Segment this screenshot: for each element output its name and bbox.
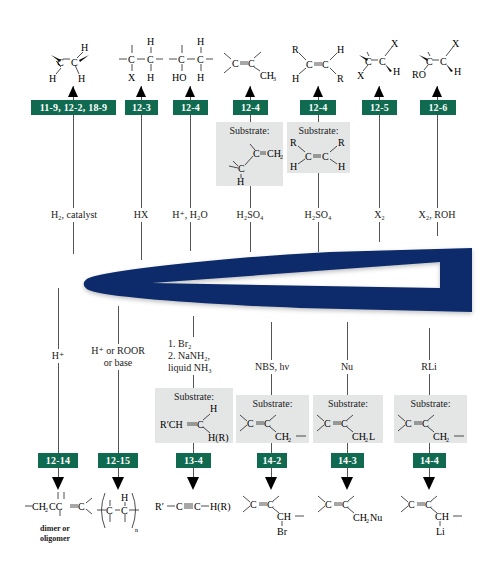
svg-text:H: H (454, 66, 461, 77)
svg-text:H: H (147, 72, 154, 83)
arrow-up-icon (313, 86, 323, 97)
product-alkyne: R′ C C H(R) (153, 496, 243, 516)
svg-text:C: C (232, 58, 239, 69)
svg-text:R′: R′ (155, 501, 164, 512)
arrow-down-icon (187, 477, 199, 490)
svg-text:R: R (290, 137, 297, 148)
section-badge: 12-3 (125, 100, 158, 115)
svg-text:C: C (408, 499, 415, 510)
svg-text:R: R (338, 137, 345, 148)
svg-text:Br: Br (277, 526, 288, 537)
section-badge: 12-4 (300, 100, 336, 115)
product-alkyl-halide: C C H X H (117, 34, 167, 84)
svg-text:H: H (210, 403, 217, 414)
section-badge: 12-14 (38, 453, 78, 468)
section-badge: 14-3 (331, 453, 364, 468)
svg-text:H(R): H(R) (210, 501, 231, 513)
svg-text:2: 2 (365, 437, 368, 443)
svg-text:C: C (121, 505, 128, 516)
reagent-line: H⁺ or ROOR (88, 345, 148, 357)
svg-text:H: H (237, 176, 244, 187)
reagent-line: or base (88, 357, 148, 369)
svg-text:Li: Li (436, 526, 445, 537)
svg-text:Nu: Nu (370, 512, 382, 523)
svg-text:C: C (247, 418, 254, 429)
reagent-label: X₂, ROH (418, 208, 456, 222)
section-badge: 14-2 (257, 453, 287, 468)
svg-text:C: C (178, 54, 185, 65)
reagent-label: RLi (418, 360, 440, 374)
arrow-up-icon (185, 86, 195, 97)
svg-text:C: C (264, 418, 271, 429)
product-dimer-oligomer: CH2 CC C (22, 490, 97, 522)
reagent-label: Nu (338, 360, 356, 374)
product-alkane-syn-h2: C C H H H (45, 38, 105, 83)
svg-text:C: C (78, 501, 85, 512)
substrate-box: Substrate: R H C C R H (287, 122, 350, 173)
svg-text:C: C (267, 499, 274, 510)
section-badge: 12-4 (173, 100, 208, 115)
section-badge: 12-15 (98, 453, 138, 468)
svg-text:H: H (121, 492, 128, 503)
svg-text:L: L (369, 431, 375, 442)
product-halo-ether: C C X H RO (412, 38, 472, 84)
svg-text:C: C (440, 56, 447, 67)
substrate-structure-allylic: C CH2 C H (216, 122, 283, 186)
arrow-down-icon (112, 477, 124, 490)
svg-text:X: X (452, 38, 460, 49)
substrate-box: Substrate: R′CH C H H(R) (155, 388, 233, 443)
svg-text:H: H (197, 36, 204, 47)
svg-text:H: H (393, 66, 400, 77)
svg-text:2: 2 (280, 154, 283, 160)
svg-text:H: H (338, 161, 345, 172)
svg-text:H: H (292, 73, 299, 84)
svg-text:C: C (322, 59, 329, 70)
svg-text:CH: CH (433, 431, 447, 442)
svg-text:C: C (306, 59, 313, 70)
section-badge: 12-6 (420, 100, 456, 115)
svg-text:C: C (248, 58, 255, 69)
svg-text:C: C (379, 56, 386, 67)
svg-text:X: X (357, 70, 365, 81)
svg-text:C: C (71, 57, 78, 68)
arrow-up-icon (68, 86, 78, 97)
svg-text:C: C (324, 418, 331, 429)
arrow-up-icon (136, 86, 146, 97)
arrow-up-icon (374, 86, 384, 97)
svg-text:R: R (337, 73, 344, 84)
product-alcohol: C C H HO H (167, 34, 217, 84)
section-badge: 12-4 (233, 100, 268, 115)
svg-text:2: 2 (288, 437, 291, 443)
product-vicinal-dihalide: C C X H X (355, 38, 410, 84)
substrate-box: Substrate: C C CH2 (236, 395, 309, 443)
reagent-label: 1. Br₂ 2. NaNH₂, liquid NH₃ (168, 337, 220, 375)
svg-text:CH: CH (32, 501, 46, 512)
svg-text:C: C (194, 501, 201, 512)
connector-line (58, 288, 59, 478)
reagent-line: 2. NaNH₂, (168, 350, 220, 362)
svg-text:C: C (197, 54, 204, 65)
section-badge: 13-4 (176, 453, 211, 468)
svg-text:R′CH: R′CH (160, 419, 183, 430)
substrate-structure-allylic-leaving-group: C C CH2L (313, 395, 383, 443)
svg-text:2: 2 (366, 518, 369, 524)
svg-text:H: H (78, 73, 85, 84)
svg-text:C: C (106, 505, 113, 516)
svg-text:H: H (197, 72, 204, 83)
svg-text:C: C (250, 499, 257, 510)
substrate-box: Substrate: C C CH2L (313, 395, 383, 443)
svg-text:C: C (57, 57, 64, 68)
arrow-up-icon (432, 86, 442, 97)
arrow-down-icon (341, 477, 353, 490)
reagent-label: HX (130, 208, 152, 222)
substrate-box: Substrate: C C CH2 (394, 395, 467, 443)
svg-text:RO: RO (412, 69, 426, 80)
note-line: oligomer (30, 534, 80, 544)
svg-text:HO: HO (172, 72, 186, 83)
substrate-structure-terminal-alkene: R′CH C H H(R) (155, 388, 233, 443)
svg-text:R: R (292, 44, 299, 55)
reagent-label: H₂, catalyst (48, 208, 100, 222)
section-badge: 12-5 (362, 100, 397, 115)
svg-text:2: 2 (446, 437, 449, 443)
reagent-label: X₂ (372, 208, 387, 222)
